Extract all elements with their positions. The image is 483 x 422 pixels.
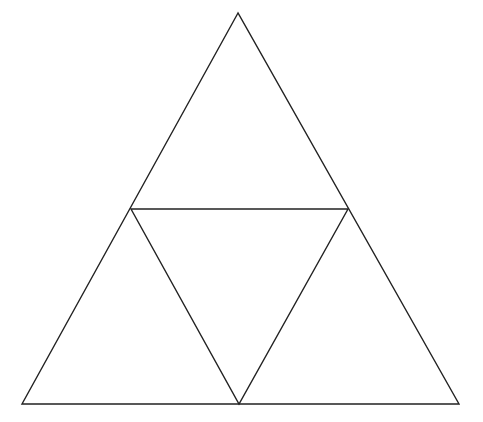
triangle-diagram [0, 0, 483, 422]
inner-inverted-triangle [131, 209, 348, 404]
